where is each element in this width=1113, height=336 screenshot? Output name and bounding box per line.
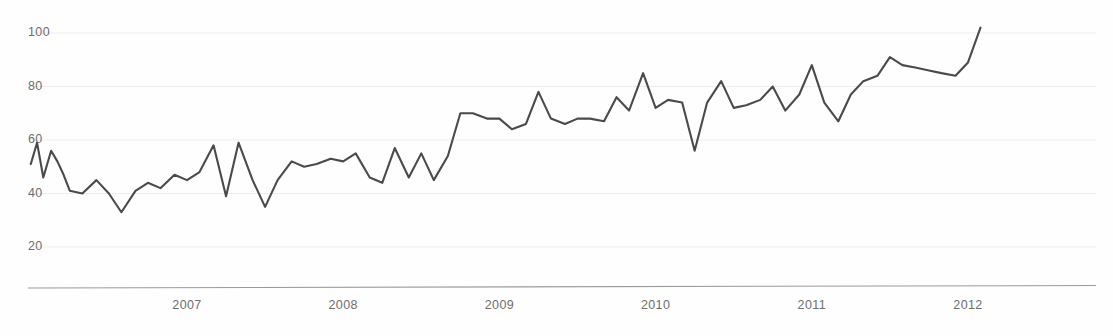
line-chart: 20406080100 200720082009201020112012 xyxy=(0,0,1113,336)
x-tick-label-2012: 2012 xyxy=(953,298,982,312)
y-tick-label-40: 40 xyxy=(28,186,43,200)
x-tick-label-2007: 2007 xyxy=(172,298,201,312)
data-series-group xyxy=(31,28,981,213)
x-axis-line xyxy=(28,286,1096,289)
series-line-1 xyxy=(31,28,981,213)
x-tick-label-2009: 2009 xyxy=(485,298,514,312)
x-axis-line-group xyxy=(28,286,1096,289)
y-tick-label-100: 100 xyxy=(28,25,50,39)
chart-plot-area xyxy=(0,0,1113,336)
x-tick-label-2010: 2010 xyxy=(641,298,670,312)
gridlines xyxy=(32,33,1096,247)
y-tick-label-80: 80 xyxy=(28,79,43,93)
x-tick-label-2011: 2011 xyxy=(798,298,826,312)
y-tick-label-60: 60 xyxy=(28,132,43,146)
y-tick-label-20: 20 xyxy=(28,239,43,253)
x-tick-label-2008: 2008 xyxy=(328,298,357,312)
